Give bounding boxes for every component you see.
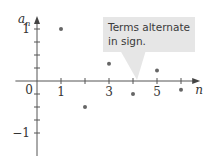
data-point bbox=[131, 92, 135, 96]
callout-line-2: in sign. bbox=[108, 35, 146, 47]
x-tick-label: 3 bbox=[105, 85, 113, 99]
origin-label: 0 bbox=[25, 83, 33, 97]
x-tick-label: 1 bbox=[57, 85, 65, 99]
data-point bbox=[83, 105, 87, 109]
data-point bbox=[59, 27, 63, 31]
y-axis-label-subscript: n bbox=[25, 19, 30, 28]
chart: Terms alternate in sign. 1351−1 0 n an bbox=[0, 0, 208, 156]
data-point bbox=[107, 62, 111, 66]
y-tick-label: −1 bbox=[12, 126, 30, 140]
x-tick-label: 5 bbox=[153, 85, 161, 99]
y-axis-label: an bbox=[18, 12, 30, 28]
x-axis-label: n bbox=[195, 83, 203, 97]
data-point bbox=[179, 88, 183, 92]
callout-line-1: Terms alternate bbox=[107, 21, 190, 33]
data-point bbox=[155, 69, 159, 73]
y-axis-label-main: a bbox=[18, 12, 25, 26]
y-axis-arrow-icon bbox=[34, 16, 40, 24]
callout-tail bbox=[120, 50, 146, 80]
callout: Terms alternate in sign. bbox=[103, 17, 195, 80]
